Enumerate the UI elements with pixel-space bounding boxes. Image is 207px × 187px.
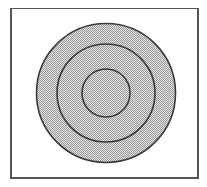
concentric-circles-figure: Concentric circles diagram — [0, 0, 207, 187]
inner-circle — [82, 69, 130, 117]
figure-container: Concentric circles diagram — [0, 0, 207, 187]
